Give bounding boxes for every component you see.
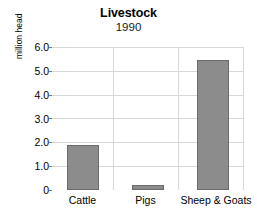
y-tick-label-1: 1.0 <box>3 161 49 171</box>
y-tick-label-2: 2.0 <box>3 137 49 147</box>
y-tick-label-3: 3.0 <box>3 114 49 124</box>
livestock-bar-chart: Livestock 1990 million head 6.0 5.0 4.0 … <box>0 0 257 220</box>
bar-pigs <box>132 185 164 190</box>
bar-sheep-and-goats <box>197 60 229 190</box>
bar-cattle <box>67 145 99 190</box>
y-tick-label-4: 4.0 <box>3 90 49 100</box>
y-tick-label-5: 5.0 <box>3 66 49 76</box>
gridline-x-3 <box>243 47 244 190</box>
gridline-y-6 <box>52 47 244 48</box>
gridline-x-2 <box>178 47 179 190</box>
x-tick-label-sheep-and-goats: Sheep & Goats <box>177 194 255 207</box>
y-tick-label-6: 6.0 <box>3 42 49 52</box>
y-tick-label-0: 0 <box>3 185 49 195</box>
y-axis-tick-labels: 6.0 5.0 4.0 3.0 2.0 1.0 0 <box>0 0 49 220</box>
y-tick-mark-0 <box>49 190 52 191</box>
x-tick-label-pigs: Pigs <box>113 194 178 207</box>
x-tick-label-cattle: Cattle <box>52 194 113 207</box>
gridline-x-1 <box>113 47 114 190</box>
plot-area <box>52 47 244 190</box>
